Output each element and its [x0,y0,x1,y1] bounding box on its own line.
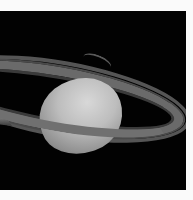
saturn-photo [0,11,186,190]
